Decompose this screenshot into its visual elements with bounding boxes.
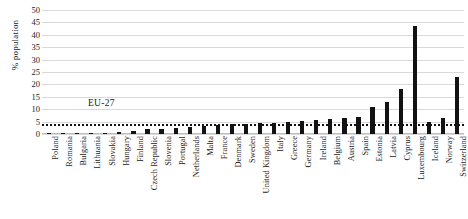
y-tick-label: 45 <box>32 18 41 27</box>
bar <box>61 133 65 134</box>
y-tick-label: 50 <box>32 6 41 15</box>
x-tick-label: Norway <box>446 136 454 163</box>
y-tick-label: 15 <box>32 93 41 102</box>
eu27-reference-line <box>42 124 464 126</box>
eu27-reference-label: EU-27 <box>88 98 115 108</box>
bar <box>75 133 79 134</box>
x-tick-label: Denmark <box>235 136 243 168</box>
x-tick-label: Greece <box>291 136 299 160</box>
y-tick-label: 10 <box>32 105 41 114</box>
x-tick-label: Lithuania <box>94 136 102 169</box>
bar <box>89 133 93 134</box>
bar <box>103 133 107 134</box>
gridline <box>42 134 464 135</box>
x-tick-label: Bulgaria <box>80 136 88 165</box>
x-tick-label: Hungary <box>123 136 131 166</box>
x-tick-label: Slovakia <box>109 136 117 166</box>
y-axis-tick-labels: 05101520253035404550 <box>24 5 40 137</box>
y-tick-label: 35 <box>32 43 41 52</box>
y-tick-label: 30 <box>32 55 41 64</box>
x-tick-label: Malta <box>207 136 215 156</box>
x-tick-label: Ireland <box>320 136 328 160</box>
x-tick-label: Germany <box>305 136 313 168</box>
x-tick-label: Spain <box>362 136 370 155</box>
bar <box>47 133 51 134</box>
bar <box>202 126 206 134</box>
x-tick-label: Belgium <box>334 136 342 165</box>
bar <box>188 127 192 134</box>
bar <box>131 131 135 134</box>
bar <box>174 128 178 134</box>
x-tick-label: Austria <box>348 136 356 161</box>
x-tick-label: Portugal <box>179 136 187 165</box>
y-tick-label: 0 <box>36 130 40 139</box>
bar <box>314 120 318 134</box>
x-tick-label: France <box>221 136 229 159</box>
y-axis-title: % population <box>10 0 20 90</box>
x-tick-label: Romania <box>66 136 74 167</box>
x-tick-label: Slovenia <box>165 136 173 166</box>
bar <box>159 129 163 134</box>
y-tick-label: 40 <box>32 31 41 40</box>
x-tick-label: United Kingdom <box>263 136 271 193</box>
x-tick-label: Finland <box>137 136 145 162</box>
x-axis-category-labels: PolandRomaniaBulgariaLithuaniaSlovakiaHu… <box>42 136 464 218</box>
x-tick-label: Iceland <box>432 136 440 161</box>
bar <box>300 121 304 134</box>
plot-area: EU-27 <box>42 10 464 134</box>
x-tick-label: Italy <box>277 136 285 152</box>
x-tick-label: Netherlands <box>193 136 201 177</box>
bar <box>399 89 403 134</box>
bar <box>117 132 121 134</box>
x-tick-label: Estonia <box>376 136 384 162</box>
bar <box>328 119 332 134</box>
bar <box>413 26 417 134</box>
bars-layer <box>42 10 464 134</box>
bar <box>216 125 220 134</box>
x-tick-label: Luxembourg <box>418 136 426 180</box>
x-tick-label: Poland <box>52 136 60 160</box>
y-tick-label: 25 <box>32 68 41 77</box>
x-tick-label: Sweden <box>249 136 257 163</box>
x-tick-label: Czech Republic <box>151 136 159 190</box>
bar <box>145 129 149 134</box>
x-tick-label: Switzerland <box>460 136 468 177</box>
y-tick-label: 5 <box>36 117 40 126</box>
bar <box>385 102 389 134</box>
x-tick-label: Latvia <box>390 136 398 158</box>
y-tick-label: 20 <box>32 80 41 89</box>
bar <box>370 107 374 134</box>
x-tick-label: Cyprus <box>404 136 412 161</box>
